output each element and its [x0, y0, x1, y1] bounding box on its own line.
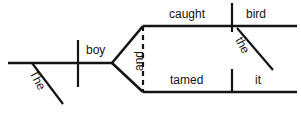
- lower-branch-object: it: [255, 74, 261, 86]
- upper-branch-verb: caught: [169, 8, 205, 20]
- upper-branch-object: bird: [246, 8, 266, 20]
- conjunction-word: and: [133, 51, 145, 71]
- lower-branch-verb: tamed: [170, 74, 203, 86]
- sentence-diagram: boy The and caught bird the tamed it: [0, 0, 301, 113]
- subject-word: boy: [86, 44, 105, 56]
